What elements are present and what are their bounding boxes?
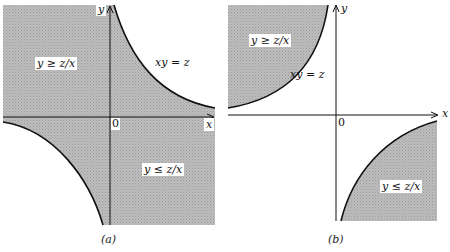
shaded-region-a (3, 5, 215, 225)
region-upper-label-a: y ≥ z/x (35, 57, 77, 70)
shaded-region-upper-b (228, 5, 328, 108)
curve-label-b: xy = z (288, 68, 326, 81)
region-upper-label-b: y ≥ z/x (249, 34, 291, 47)
region-lower-label-a: y ≤ z/x (142, 163, 184, 176)
y-axis-label-a: y (96, 3, 106, 16)
caption-b: (b) (328, 233, 344, 246)
figure-canvas (0, 0, 450, 252)
origin-label-a: 0 (111, 118, 120, 130)
x-axis-label-a: x (204, 118, 214, 131)
origin-label-b: 0 (337, 117, 346, 129)
shaded-region-lower-b (341, 121, 437, 221)
caption-a: (a) (101, 233, 116, 246)
y-axis-label-b: y (339, 2, 349, 15)
panel-a (3, 5, 215, 225)
region-lower-label-b: y ≤ z/x (380, 180, 422, 193)
curve-label-a: xy = z (153, 56, 191, 69)
x-axis-label-b: x (440, 107, 450, 120)
